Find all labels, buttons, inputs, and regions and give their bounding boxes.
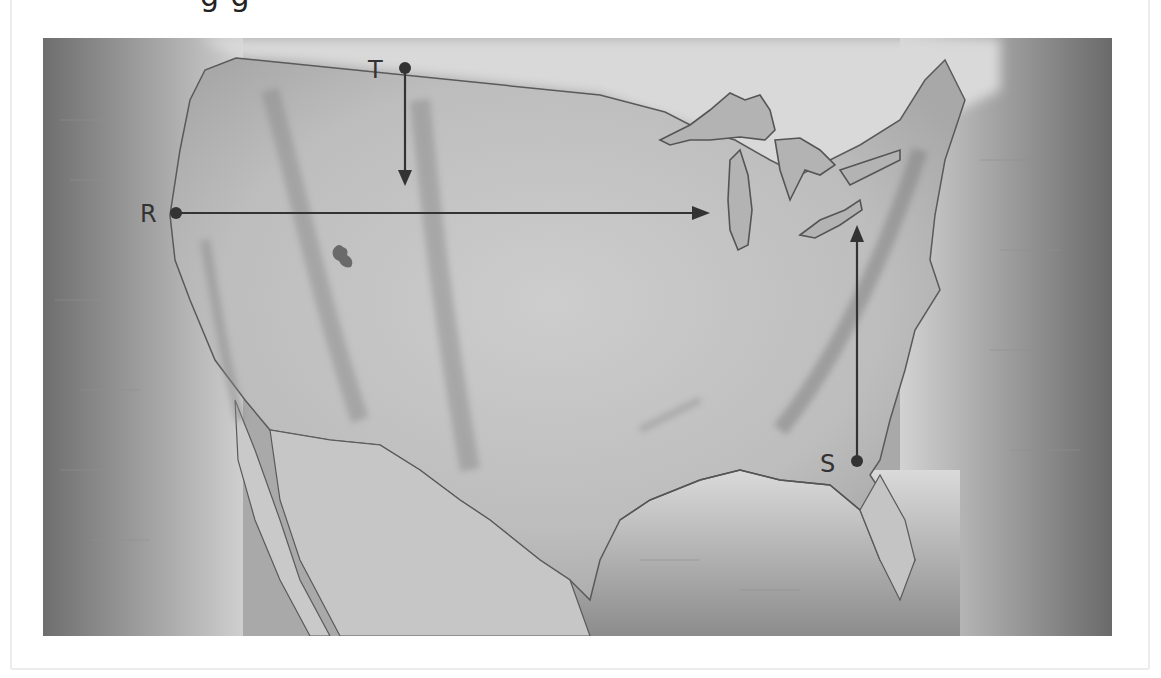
label-r: R bbox=[140, 200, 157, 228]
point-r bbox=[170, 207, 182, 219]
point-s bbox=[851, 455, 863, 467]
label-s: S bbox=[820, 450, 835, 478]
label-t: T bbox=[367, 56, 383, 84]
us-relief-map: T R S bbox=[43, 38, 1112, 636]
figure-title-clipped: g g bbox=[200, 0, 251, 13]
point-t bbox=[399, 62, 411, 74]
